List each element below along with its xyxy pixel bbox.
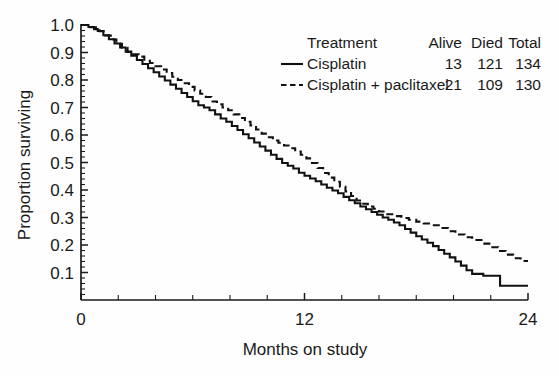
x-tick-label: 12 (295, 310, 314, 329)
y-tick-label: 0.4 (50, 181, 74, 200)
y-tick-label: 1.0 (50, 16, 74, 35)
legend-value: 13 (445, 55, 462, 72)
legend-value: 21 (445, 76, 462, 93)
y-tick-label: 0.7 (50, 99, 74, 118)
y-tick-label: 0.3 (50, 209, 74, 228)
legend-column-header: Alive (428, 34, 462, 51)
legend-value: 121 (477, 55, 503, 72)
legend-column-header: Total (508, 34, 541, 51)
y-tick-label: 0.8 (50, 71, 74, 90)
legend-value: 134 (515, 55, 541, 72)
legend-value: 109 (477, 76, 503, 93)
y-axis-title: Proportion surviving (15, 90, 34, 240)
legend: TreatmentAliveDiedTotalCisplatin13121134… (281, 34, 541, 93)
kaplan-meier-plot: 0.10.20.30.40.50.60.70.80.91.001224 Trea… (0, 0, 559, 376)
y-tick-label: 0.1 (50, 264, 74, 283)
legend-value: 130 (515, 76, 541, 93)
y-tick-label: 0.9 (50, 44, 74, 63)
legend-column-header: Died (471, 34, 503, 51)
legend-series-label: Cisplatin (307, 55, 366, 72)
x-axis-title: Months on study (243, 340, 368, 359)
legend-series-label: Cisplatin + paclitaxel (307, 76, 449, 93)
y-tick-label: 0.5 (50, 154, 74, 173)
y-tick-label: 0.6 (50, 126, 74, 145)
survival-curve-figure: 0.10.20.30.40.50.60.70.80.91.001224 Trea… (0, 0, 559, 376)
x-tick-label: 24 (519, 310, 538, 329)
legend-header-treatment: Treatment (307, 34, 378, 51)
x-tick-label: 0 (76, 310, 85, 329)
y-tick-label: 0.2 (50, 236, 74, 255)
